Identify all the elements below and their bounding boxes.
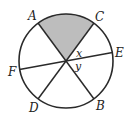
shaded-sector-ac [38, 14, 94, 61]
label-c: C [95, 10, 104, 24]
label-f: F [7, 65, 17, 79]
label-e: E [114, 46, 124, 60]
angle-y-label: y [74, 60, 82, 73]
diagram-canvas: A C E F D B x y [0, 0, 130, 119]
label-a: A [27, 9, 37, 23]
label-d: D [28, 101, 39, 115]
circle-diagram: A C E F D B x y [0, 0, 130, 119]
angle-x-label: x [76, 47, 83, 60]
label-b: B [95, 99, 105, 113]
